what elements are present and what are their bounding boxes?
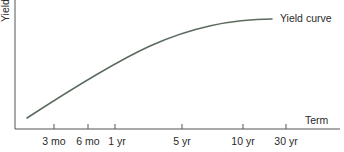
tick-label-6mo: 6 mo (76, 135, 100, 147)
tick-label-30yr: 30 yr (274, 135, 298, 147)
yield-curve-line (27, 19, 272, 118)
yield-curve-label: Yield curve (280, 12, 332, 24)
tick-label-3mo: 3 mo (42, 135, 66, 147)
tick-label-10yr: 10 yr (231, 135, 255, 147)
yield-curve-chart: Yield Term 3 mo 6 mo 1 yr 5 yr 10 yr 30 … (0, 0, 344, 152)
x-axis-ticks (54, 124, 286, 129)
x-axis-tick-labels: 3 mo 6 mo 1 yr 5 yr 10 yr 30 yr (42, 135, 298, 147)
tick-label-1yr: 1 yr (108, 135, 126, 147)
x-axis-title: Term (305, 114, 329, 126)
tick-label-5yr: 5 yr (173, 135, 191, 147)
y-axis-title: Yield (0, 0, 11, 22)
